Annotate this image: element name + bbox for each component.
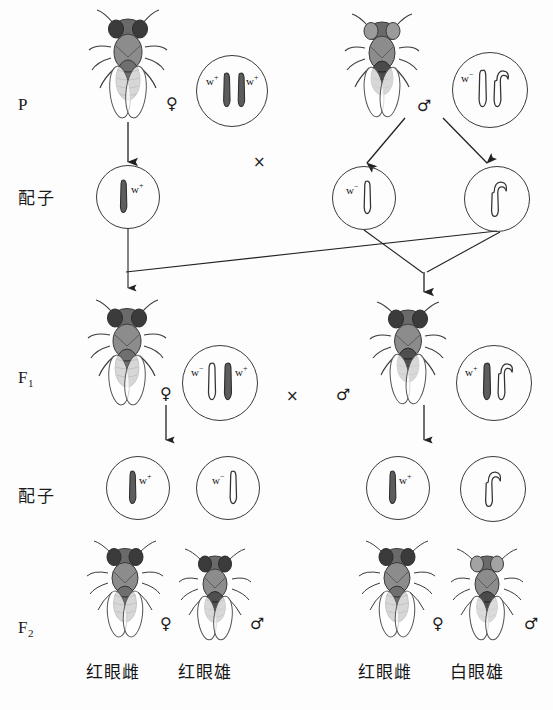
allele-label-left: w+	[465, 365, 477, 378]
row-label-f1-main: F	[18, 368, 28, 387]
gamete-p-female-wplus: w+	[96, 165, 160, 229]
row-label-gametes-2: 配子	[18, 482, 56, 507]
allele-label-left: w−	[191, 365, 203, 378]
sex-symbol-p-female: ♀	[166, 96, 178, 112]
row-label-gametes-1: 配子	[18, 184, 56, 209]
row-label-p: P	[18, 95, 28, 115]
row-label-f2: F2	[18, 618, 34, 639]
karyotype-p-male: w−	[452, 52, 528, 128]
gamete-f1-male-wplus: w+	[366, 456, 430, 520]
allele-label-right: w+	[235, 365, 247, 378]
fly-f2-1	[86, 540, 164, 640]
gamete-f1-female-wminus: w−	[196, 456, 260, 520]
gamete-chromosome	[197, 457, 259, 519]
arrow-p-male-to-gamete-x	[367, 118, 405, 163]
allele-letter: w	[212, 474, 220, 486]
fly-f2-2	[178, 548, 252, 644]
allele-superscript: +	[147, 472, 152, 481]
sex-symbol-f2-3: ♀	[432, 616, 444, 632]
karyotype-f1-female: w− w+	[182, 345, 258, 421]
fly-f2-4	[450, 548, 524, 644]
karyotype-f1-male: w+	[456, 345, 532, 421]
gamete-chromosome-y	[461, 457, 525, 521]
allele-letter: w	[346, 184, 354, 196]
allele-letter: w	[235, 366, 243, 378]
allele-letter: w	[461, 72, 469, 84]
sex-symbol-f2-1: ♀	[160, 616, 172, 632]
allele-letter: w	[465, 366, 473, 378]
allele-superscript: −	[354, 182, 359, 191]
cross-symbol-f1: ×	[286, 389, 299, 404]
chromosome-pair-p-female	[197, 56, 267, 126]
gamete-chromosome-y	[465, 167, 529, 231]
phenotype-caption-f2-1: 红眼雌	[86, 658, 140, 683]
chromosome-x-dark-right	[224, 363, 231, 400]
sex-symbol-p-male: ♂	[417, 98, 431, 114]
sex-symbol-f1-female: ♀	[160, 386, 172, 402]
allele-label-right: w+	[139, 473, 151, 486]
fly-f2-3	[358, 540, 436, 640]
chromosome-x-open	[479, 70, 486, 107]
gamete-chromosome	[333, 167, 395, 229]
chromosome-x-open-left	[209, 363, 216, 400]
fly-p-male	[344, 12, 420, 122]
chromosome-y-open	[494, 71, 508, 107]
chromosome-y-open	[498, 364, 512, 400]
allele-superscript: +	[473, 364, 478, 373]
row-label-f2-sub: 2	[28, 627, 34, 639]
allele-superscript: +	[214, 73, 219, 82]
phenotype-caption-f2-4: 白眼雄	[450, 658, 504, 683]
gamete-chromosome	[107, 457, 169, 519]
row-label-f1: F1	[18, 368, 34, 389]
allele-letter: w	[206, 75, 214, 87]
chromosome-x-dark-left	[224, 73, 230, 107]
genetics-diagram: P 配子 F1 配子 F2	[0, 0, 553, 710]
allele-label-left: w+	[206, 74, 218, 87]
chromosome-pair-f1-male	[457, 346, 531, 420]
sex-symbol-f2-4: ♂	[524, 616, 538, 632]
sex-symbol-f2-2: ♂	[250, 616, 264, 632]
fly-f1-female	[86, 298, 168, 410]
row-label-f1-sub: 1	[28, 377, 34, 389]
allele-superscript: +	[254, 73, 259, 82]
allele-superscript: −	[220, 472, 225, 481]
allele-label-left: w−	[346, 183, 358, 196]
allele-superscript: +	[243, 364, 248, 373]
gamete-p-male-y	[464, 166, 530, 232]
line-y-to-f1-female	[126, 231, 497, 272]
allele-letter: w	[131, 183, 139, 195]
line-y-to-f1-male	[427, 232, 500, 272]
gamete-chromosome	[97, 166, 159, 228]
allele-superscript: −	[199, 364, 204, 373]
fly-p-female	[88, 8, 168, 124]
allele-label-left: w−	[461, 71, 473, 84]
gamete-f1-female-wplus: w+	[106, 456, 170, 520]
phenotype-caption-f2-3: 红眼雌	[358, 658, 412, 683]
gamete-f1-male-y	[460, 456, 526, 522]
allele-label-right: w+	[131, 182, 143, 195]
allele-label-right: w+	[399, 473, 411, 486]
phenotype-caption-f2-2: 红眼雄	[178, 658, 232, 683]
allele-superscript: −	[469, 70, 474, 79]
allele-label-right: w+	[246, 74, 258, 87]
allele-superscript: +	[407, 472, 412, 481]
allele-letter: w	[139, 474, 147, 486]
chromosome-pair-p-male	[453, 53, 527, 127]
cross-symbol-p: ×	[253, 155, 266, 170]
allele-letter: w	[246, 75, 254, 87]
allele-letter: w	[191, 366, 199, 378]
fly-f1-male	[368, 300, 448, 410]
line-wminus-to-f1-male	[364, 230, 423, 273]
gamete-chromosome	[367, 457, 429, 519]
sex-symbol-f1-male: ♂	[336, 387, 350, 403]
allele-superscript: +	[139, 181, 144, 190]
allele-label-left: w−	[212, 473, 224, 486]
karyotype-p-female: w+ w+	[196, 55, 268, 127]
chromosome-pair-f1-female	[183, 346, 257, 420]
allele-letter: w	[399, 474, 407, 486]
gamete-p-male-wminus: w−	[332, 166, 396, 230]
chromosome-x-dark-right	[238, 73, 244, 107]
row-label-f2-main: F	[18, 618, 28, 637]
chromosome-x-dark	[483, 363, 490, 400]
